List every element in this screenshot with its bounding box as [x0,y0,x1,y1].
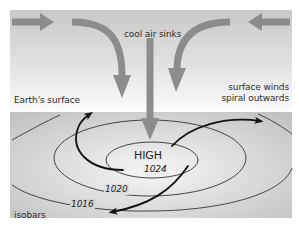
high-pressure-center-label: HIGH [134,150,162,161]
surface-winds-label: surface winds spiral outwards [221,82,289,104]
isobar-value-1024: 1024 [143,164,168,175]
isobars-label: isobars [14,210,46,221]
surface-winds-line1: surface winds [221,82,289,93]
isobar-value-1020: 1020 [104,184,129,195]
cool-air-sinks-label: cool air sinks [124,29,181,40]
isobar-value-1016: 1016 [70,199,95,210]
earths-surface-label: Earth's surface [14,95,80,106]
surface-winds-line2: spiral outwards [221,93,289,104]
